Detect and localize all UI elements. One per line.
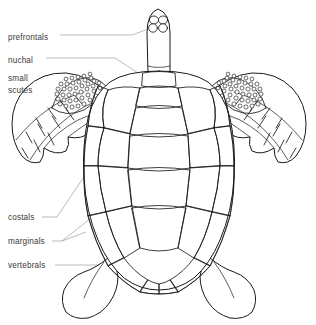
- carapace-outline: [84, 71, 235, 290]
- diagram-canvas: prefrontals nuchal small scutes costals …: [0, 0, 316, 325]
- label-prefrontals: prefrontals: [8, 33, 48, 42]
- label-small-scutes-line2: scutes: [8, 86, 33, 95]
- rear-flipper-right-outline: [200, 258, 256, 318]
- prefrontal-scale: [149, 16, 158, 24]
- label-vertebrals: vertebrals: [8, 261, 45, 270]
- rear-flipper-left: [62, 258, 118, 318]
- turtle-anatomy-diagram: prefrontals nuchal small scutes costals …: [0, 0, 316, 325]
- prefrontal-scale: [159, 24, 168, 32]
- label-nuchal: nuchal: [8, 56, 33, 65]
- leader-line-prefrontals: [60, 25, 159, 35]
- prefrontal-scale: [158, 16, 167, 24]
- leader-line-marginals: [52, 232, 86, 241]
- prefrontal-scale: [149, 24, 158, 32]
- label-costals: costals: [8, 213, 35, 222]
- turtle-head: [147, 9, 170, 73]
- rear-flipper-right: [200, 258, 256, 318]
- rear-flipper-left-outline: [62, 258, 118, 318]
- label-small-scutes-line1: small: [8, 74, 28, 83]
- label-marginals: marginals: [8, 237, 45, 246]
